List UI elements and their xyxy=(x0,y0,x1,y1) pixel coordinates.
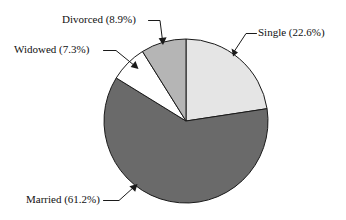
pie-label-widowed: Widowed (7.3%) xyxy=(14,43,90,56)
leader-line-married xyxy=(104,187,135,201)
pie-label-single: Single (22.6%) xyxy=(258,26,325,39)
pie-label-divorced: Divorced (8.9%) xyxy=(62,13,136,26)
leader-line-divorced xyxy=(149,21,163,41)
pie-chart-figure: Single (22.6%) Married (61.2%) Widowed (… xyxy=(0,0,346,220)
pie-chart-canvas: Single (22.6%) Married (61.2%) Widowed (… xyxy=(0,0,346,220)
pie-slices xyxy=(104,39,268,203)
pie-label-married: Married (61.2%) xyxy=(26,193,100,206)
leader-line-single xyxy=(234,34,257,53)
pie-slice-single[interactable] xyxy=(186,39,267,121)
